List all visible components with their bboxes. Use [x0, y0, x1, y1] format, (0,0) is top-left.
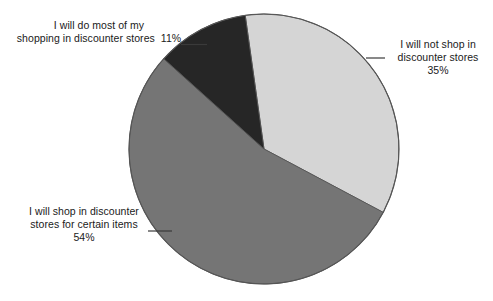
label-certain-items-line1: I will shop in discounter [8, 205, 160, 218]
label-most-shopping: I will do most of my shopping in discoun… [14, 19, 184, 45]
pie-chart: I will do most of my shopping in discoun… [0, 0, 493, 301]
label-certain-items: I will shop in discounter stores for cer… [8, 205, 160, 245]
label-certain-items-percent: 54% [8, 231, 160, 244]
label-not-shop: I will not shop in discounter stores 35% [386, 38, 490, 78]
label-most-shopping-line2-row: shopping in discounter stores 11% [14, 32, 184, 45]
label-most-shopping-line1: I will do most of my [14, 19, 184, 32]
label-most-shopping-line2: shopping in discounter stores [17, 32, 155, 44]
label-not-shop-line2: discounter stores [386, 51, 490, 64]
label-not-shop-percent: 35% [386, 64, 490, 77]
label-most-shopping-percent: 11% [161, 32, 181, 44]
label-not-shop-line1: I will not shop in [386, 38, 490, 51]
label-certain-items-line2: stores for certain items [8, 218, 160, 231]
